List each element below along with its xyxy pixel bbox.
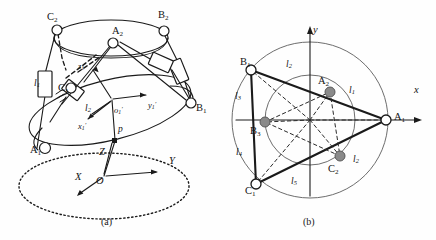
- figure-container: C2 A2 B2 C1 B1 A1 l1 l2 o1′ x1′ y1′ z1′ …: [0, 0, 436, 240]
- joint-a1-node: [381, 115, 391, 125]
- label-link-l4-b: l4: [236, 148, 242, 158]
- label-axis-x1prime: x1′: [78, 122, 86, 132]
- prismatic-joint-l1: [38, 71, 52, 97]
- panel-a-drawing: [0, 0, 218, 240]
- leg-l1-lower: [37, 96, 45, 148]
- label-link-l5-b: l5: [291, 177, 297, 187]
- joint-a2-node: [325, 87, 335, 97]
- base-frame-axes: [79, 143, 156, 194]
- label-joint-A2: A2: [112, 26, 123, 38]
- label-link-l1: l1: [34, 79, 40, 89]
- leg-c2-left: [45, 31, 56, 74]
- label-joint-C1: C1: [58, 83, 69, 95]
- joint-b3-node: [260, 117, 270, 127]
- dash-c2-b3: [265, 122, 340, 156]
- point-p-marker: [112, 138, 117, 143]
- arrowhead-x1-prime: [88, 113, 94, 119]
- label-axis-y1prime: y1′: [148, 101, 156, 111]
- joint-b1-circle: [186, 98, 196, 108]
- axis-extra-1: [92, 101, 111, 114]
- label-a1-node: A1: [394, 112, 405, 124]
- label-axis-y-b: y: [313, 25, 318, 36]
- caption-panel-b: (b): [303, 216, 315, 227]
- panel-b-top-view: x y B1 A2 A1 B3 C2 C1 l1 l2 l3 l4 l5 l2 …: [218, 0, 436, 240]
- caption-panel-a: (a): [101, 216, 112, 227]
- dash-b3-a2: [265, 92, 330, 122]
- base-ellipse: [19, 153, 189, 219]
- label-joint-B1: B1: [196, 103, 207, 115]
- line-p-to-O: [104, 141, 115, 176]
- label-joint-C2: C2: [47, 12, 58, 24]
- arrowhead-X: [77, 190, 83, 196]
- label-link-l2: l2: [85, 104, 91, 114]
- label-link-l2b-b: l2: [353, 155, 359, 165]
- label-b1-node: B1: [240, 57, 251, 69]
- joint-c2-circle: [52, 25, 62, 35]
- label-axis-Y: Y: [169, 156, 175, 167]
- axis-z1-prime: [93, 70, 111, 98]
- dash-center-b1: [251, 70, 310, 120]
- joint-b2-circle: [159, 26, 169, 36]
- joint-c2-node: [335, 151, 345, 161]
- label-c1-node: C1: [245, 186, 256, 198]
- label-joint-B2: B2: [158, 10, 169, 22]
- dash-center-c1: [256, 120, 310, 184]
- label-link-l1-b: l1: [349, 86, 355, 96]
- label-link-l2-b: l2: [286, 60, 292, 70]
- label-link-l3-b: l3: [235, 92, 241, 102]
- label-base-origin-O: O: [96, 176, 104, 187]
- axis-Y: [106, 172, 156, 176]
- label-joint-A1: A1: [30, 145, 41, 157]
- dashed-leg-1: [58, 34, 66, 70]
- label-axis-x-b: x: [414, 85, 419, 96]
- joint-a2-circle: [108, 38, 118, 48]
- label-axis-X: X: [75, 172, 81, 183]
- label-b3-node: B3: [250, 126, 261, 138]
- prismatic-joint-a2-right: [148, 52, 173, 73]
- leg-a2-left: [84, 44, 113, 82]
- label-moving-origin-o1prime: o1′: [114, 106, 122, 116]
- panel-a-3d-view: C2 A2 B2 C1 B1 A1 l1 l2 o1′ x1′ y1′ z1′ …: [0, 0, 218, 240]
- arrowhead-x-b: [414, 117, 422, 123]
- label-a2-node: A2: [318, 76, 329, 88]
- label-axis-z1prime: z1′: [78, 62, 85, 72]
- label-point-p: p: [118, 125, 123, 135]
- arrowhead-y1-prime: [140, 93, 146, 98]
- label-c2-node: C2: [328, 164, 339, 176]
- axis-Z: [104, 143, 112, 174]
- arrowhead-Y: [151, 169, 158, 174]
- label-axis-Z: Z: [99, 147, 105, 158]
